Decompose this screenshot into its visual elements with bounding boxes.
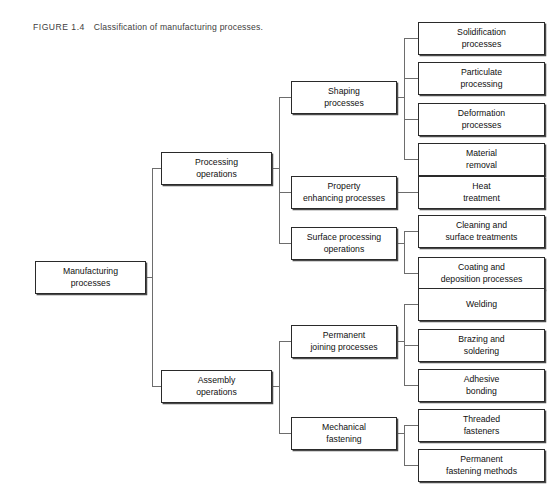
node-manufacturing-processes[interactable]: Manufacturing processes xyxy=(35,261,146,294)
connector-to-particulate xyxy=(404,78,418,79)
node-particulate-processing[interactable]: Particulate processing xyxy=(418,62,545,95)
figure-caption-text: Classification of manufacturing processe… xyxy=(94,22,263,32)
node-label-line2: removal xyxy=(466,160,497,171)
node-brazing-and-soldering[interactable]: Brazing and soldering xyxy=(418,329,545,362)
node-processing-operations[interactable]: Processing operations xyxy=(161,152,272,185)
figure-caption-label: FIGURE 1.4 xyxy=(33,22,85,32)
figure-container: FIGURE 1.4Classification of manufacturin… xyxy=(0,0,552,493)
node-shaping-processes[interactable]: Shaping processes xyxy=(291,81,397,114)
connector-fastening-trunk xyxy=(404,425,405,466)
connector-to-welding xyxy=(404,304,418,305)
node-label-line2: fastening methods xyxy=(446,466,517,477)
node-adhesive-bonding[interactable]: Adhesive bonding xyxy=(418,369,545,402)
node-label-line2: processes xyxy=(63,278,118,289)
connector-to-shaping-processes xyxy=(279,97,291,98)
node-label-line2: fasteners xyxy=(463,426,500,437)
node-label-line1: Heat xyxy=(463,181,500,192)
connector-to-material-removal xyxy=(404,159,418,160)
node-label-line1: Particulate xyxy=(460,67,502,78)
node-label-line1: Welding xyxy=(466,299,497,310)
connector-to-coating-deposition xyxy=(404,273,418,274)
node-label-line2: surface treatments xyxy=(446,232,518,243)
node-label-line1: Deformation xyxy=(458,108,505,119)
node-label-line1: Material xyxy=(466,148,497,159)
node-label-line2: soldering xyxy=(458,346,504,357)
connector-to-cleaning-surface xyxy=(404,231,418,232)
node-label-line1: Cleaning and xyxy=(446,220,518,231)
connector-to-deformation xyxy=(404,119,418,120)
node-label-line2: operations xyxy=(307,244,381,255)
node-label-line1: Property xyxy=(303,181,385,192)
node-label-line1: Brazing and xyxy=(458,334,504,345)
node-solidification-processes[interactable]: Solidification processes xyxy=(418,22,545,55)
connector-to-surface-processing xyxy=(279,243,291,244)
connector-to-permanent-fastening xyxy=(404,465,418,466)
node-label-line1: Surface processing xyxy=(307,232,381,243)
connector-assembly-trunk xyxy=(279,341,280,434)
node-label-line1: Permanent xyxy=(446,454,517,465)
node-label-line2: deposition processes xyxy=(441,274,523,285)
connector-to-threaded-fasteners xyxy=(404,425,418,426)
node-label-line1: Adhesive xyxy=(464,374,500,385)
connector-surface-trunk xyxy=(404,231,405,274)
node-property-enhancing-processes[interactable]: Property enhancing processes xyxy=(291,176,397,209)
node-cleaning-and-surface-treatments[interactable]: Cleaning and surface treatments xyxy=(418,215,545,248)
connector-to-mechanical-fastening xyxy=(279,433,291,434)
node-label-line1: Coating and xyxy=(441,262,523,273)
node-label-line1: Shaping xyxy=(324,86,364,97)
connector-to-solidification xyxy=(404,38,418,39)
node-deformation-processes[interactable]: Deformation processes xyxy=(418,103,545,136)
node-label-line2: joining processes xyxy=(310,342,377,353)
connector-to-property-enhancing xyxy=(279,192,291,193)
node-label-line2: operations xyxy=(195,169,238,180)
connector-level1-trunk xyxy=(152,168,153,387)
node-label-line1: Assembly xyxy=(196,375,237,386)
node-label-line1: Threaded xyxy=(463,414,500,425)
connector-shaping-trunk xyxy=(404,38,405,160)
connector-to-heat-treatment xyxy=(397,192,418,193)
connector-to-adhesive-bonding xyxy=(404,385,418,386)
connector-to-processing-operations xyxy=(152,168,161,169)
figure-caption: FIGURE 1.4Classification of manufacturin… xyxy=(33,22,263,32)
node-label-line2: processes xyxy=(457,39,506,50)
node-label-line1: Mechanical xyxy=(322,422,366,433)
node-heat-treatment[interactable]: Heat treatment xyxy=(418,176,545,209)
node-material-removal[interactable]: Material removal xyxy=(418,143,545,176)
node-mechanical-fastening[interactable]: Mechanical fastening xyxy=(291,417,397,450)
node-label-line1: Permanent xyxy=(310,330,377,341)
node-label-line2: operations xyxy=(196,387,237,398)
node-label-line2: bonding xyxy=(464,386,500,397)
node-permanent-fastening-methods[interactable]: Permanent fastening methods xyxy=(418,449,545,482)
node-label-line2: enhancing processes xyxy=(303,193,385,204)
node-threaded-fasteners[interactable]: Threaded fasteners xyxy=(418,409,545,442)
node-label-line2: treatment xyxy=(463,193,500,204)
connector-to-permanent-joining xyxy=(279,341,291,342)
node-permanent-joining-processes[interactable]: Permanent joining processes xyxy=(291,325,397,358)
node-assembly-operations[interactable]: Assembly operations xyxy=(161,370,272,403)
node-label-line1: Manufacturing xyxy=(63,266,118,277)
connector-processing-trunk xyxy=(279,97,280,244)
connector-to-brazing xyxy=(404,345,418,346)
node-welding[interactable]: Welding xyxy=(418,288,545,321)
node-label-line1: Solidification xyxy=(457,27,506,38)
node-label-line2: fastening xyxy=(322,434,366,445)
node-coating-and-deposition-processes[interactable]: Coating and deposition processes xyxy=(418,257,545,290)
node-label-line2: processes xyxy=(324,98,364,109)
node-surface-processing-operations[interactable]: Surface processing operations xyxy=(291,227,397,260)
connector-to-assembly-operations xyxy=(152,386,161,387)
node-label-line2: processing xyxy=(460,79,502,90)
node-label-line2: processes xyxy=(458,120,505,131)
node-label-line1: Processing xyxy=(195,157,238,168)
